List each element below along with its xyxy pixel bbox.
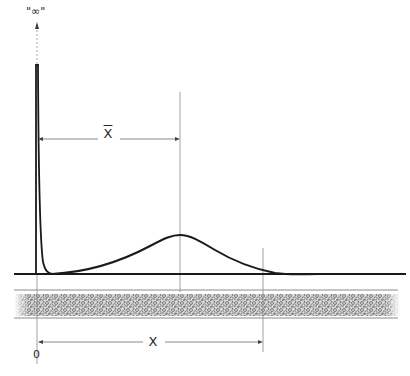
arrowhead-right-icon — [175, 137, 180, 141]
distance-label: X — [145, 334, 162, 349]
chromatography-peak-diagram — [0, 0, 410, 376]
infinity-label: "∞" — [26, 5, 45, 18]
arrowhead-left-icon — [38, 340, 43, 344]
injection-spike — [36, 65, 52, 274]
y-axis-arrowhead-icon — [35, 22, 39, 29]
column-bed — [14, 290, 400, 318]
origin-label: 0 — [33, 348, 40, 361]
arrowhead-right-icon — [258, 340, 263, 344]
eluted-band-curve — [52, 235, 320, 274]
mean-distance-label: X — [101, 126, 116, 141]
